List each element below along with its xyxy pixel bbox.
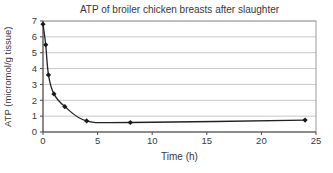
- x-tick-label: 25: [311, 135, 322, 146]
- data-point-marker: [43, 42, 48, 47]
- x-tick-label: 10: [147, 135, 158, 146]
- data-point-marker: [84, 118, 89, 123]
- y-tick-label: 2: [32, 95, 37, 106]
- x-tick-label: 0: [40, 135, 45, 146]
- data-point-marker: [128, 120, 133, 125]
- data-point-marker: [40, 22, 45, 27]
- x-tick-label: 20: [256, 135, 267, 146]
- y-tick-label: 6: [32, 31, 37, 42]
- y-tick-label: 3: [32, 79, 37, 90]
- data-point-marker: [302, 118, 307, 123]
- y-tick-label: 1: [32, 110, 37, 121]
- x-tick-label: 5: [95, 135, 100, 146]
- data-point-marker: [46, 72, 51, 77]
- x-axis-title: Time (h): [43, 151, 316, 163]
- y-tick-label: 5: [32, 47, 37, 58]
- data-line: [43, 24, 305, 123]
- y-tick-label: 7: [32, 15, 37, 26]
- x-tick-label: 15: [202, 135, 213, 146]
- plot-border: [43, 21, 316, 132]
- plot-area: 012345670510152025: [0, 0, 333, 173]
- chart-figure: ATP of broiler chicken breasts after sla…: [0, 0, 333, 173]
- y-tick-label: 4: [32, 63, 37, 74]
- y-tick-label: 0: [32, 126, 37, 137]
